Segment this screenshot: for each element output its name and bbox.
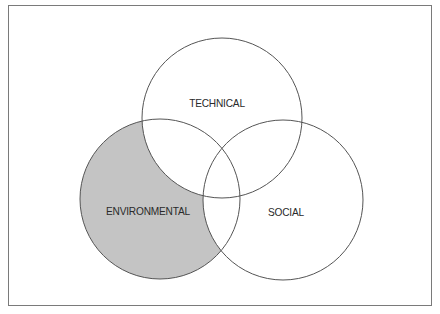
technical-label: TECHNICAL bbox=[189, 97, 245, 109]
social-label: SOCIAL bbox=[268, 206, 304, 218]
environmental-only-shaded-region bbox=[0, 0, 440, 314]
venn-diagram bbox=[0, 0, 440, 314]
environmental-label: ENVIRONMENTAL bbox=[106, 205, 190, 217]
